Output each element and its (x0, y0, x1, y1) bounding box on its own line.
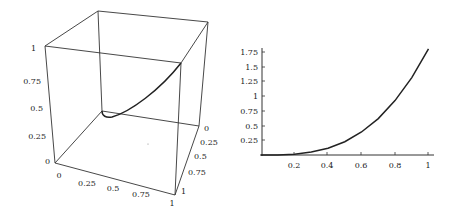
y-tick-label: 0.5 (245, 122, 258, 131)
x-tick-label: 0.2 (288, 161, 301, 170)
x-axis-labels-2d: 0.2 0.4 0.6 0.8 1 (288, 161, 431, 170)
y-tick-label: 0.25 (240, 136, 258, 145)
z-label: 0.25 (28, 132, 46, 141)
y-tick-label: 1 (253, 92, 258, 101)
x-tick-label: 0.6 (355, 161, 368, 170)
x-tick-label: 0.4 (321, 161, 334, 170)
x-label: 1 (169, 199, 174, 208)
x-label: 0.75 (132, 190, 150, 199)
y-axis-labels-2d: 1.75 1.5 1.25 1 0.75 0.5 0.25 (240, 48, 258, 145)
y-label: 1 (181, 187, 186, 196)
y-tick-label: 1.25 (240, 77, 258, 86)
y-label: 0.5 (194, 152, 207, 161)
x-axis-labels: 0 0.25 0.5 0.75 1 (56, 171, 174, 208)
y-tick-label: 1.75 (240, 48, 258, 57)
y-tick-label: 1.5 (245, 63, 258, 72)
space-curve (102, 63, 181, 117)
speck (147, 143, 148, 144)
bounding-box (45, 11, 208, 195)
x-label: 0.5 (107, 184, 120, 193)
plot-2d: 1.75 1.5 1.25 1 0.75 0.5 0.25 0.2 0.4 0.… (240, 48, 434, 170)
y-label: 0.75 (188, 168, 206, 177)
x-label: 0.25 (78, 179, 96, 188)
z-label: 0.75 (23, 77, 41, 86)
z-label: 0 (45, 157, 50, 166)
y-tick-label: 0.75 (240, 107, 258, 116)
z-label: 0.5 (30, 104, 43, 113)
x-tick-label: 0.8 (389, 161, 402, 170)
y-label: 0.25 (200, 138, 218, 147)
y-label: 0 (204, 124, 209, 133)
x-label: 0 (56, 171, 61, 180)
y-axis-labels: 0 0.25 0.5 0.75 1 (181, 124, 218, 196)
plot-3d: 1 0.75 0.5 0.25 0 0 0.25 0.5 0.75 1 0 0.… (23, 11, 218, 208)
data-curve (261, 49, 429, 155)
z-label: 1 (31, 44, 36, 53)
x-tick-label: 1 (425, 161, 430, 170)
figure: 1 0.75 0.5 0.25 0 0 0.25 0.5 0.75 1 0 0.… (0, 0, 455, 217)
